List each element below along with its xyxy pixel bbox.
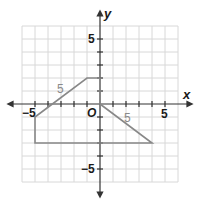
tick-label-y-neg5: −5 (81, 162, 95, 176)
side-length-label-lower: 5 (124, 111, 131, 125)
origin-label: O (87, 106, 97, 120)
coordinate-plane: x y O −5 5 5 −5 5 5 (0, 0, 201, 204)
tick-label-x-5: 5 (161, 107, 168, 121)
tick-label-y-5: 5 (88, 32, 95, 46)
side-length-label-upper: 5 (57, 82, 64, 96)
x-axis-label: x (182, 87, 191, 102)
tick-label-x-neg5: −5 (22, 106, 36, 120)
y-axis-label: y (103, 6, 112, 21)
